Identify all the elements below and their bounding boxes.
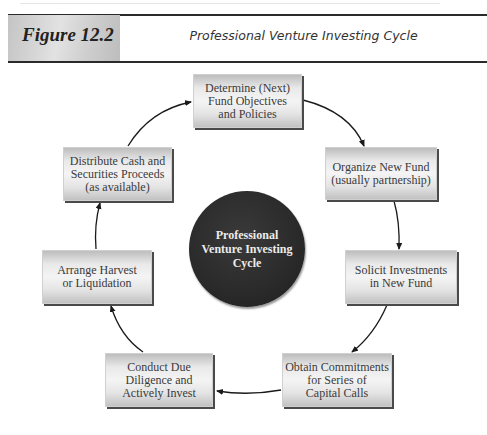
step-line: Arrange Harvest bbox=[57, 263, 137, 277]
step-obtain-commitments: Obtain Commitmentsfor Series ofCapital C… bbox=[282, 353, 392, 407]
center-line: Venture Investing bbox=[201, 242, 292, 256]
step-line: Securities Proceeds bbox=[71, 167, 165, 181]
center-line: Cycle bbox=[233, 256, 262, 270]
step-determine-fund-objectives: Determine (Next)Fund Objectivesand Polic… bbox=[193, 74, 302, 128]
step-line: Obtain Commitments bbox=[285, 360, 389, 374]
step-line: in New Fund bbox=[370, 276, 433, 290]
step-line: or Liquidation bbox=[62, 276, 131, 290]
step-solicit-investments: Solicit Investmentsin New Fund bbox=[345, 250, 457, 304]
step-conduct-due-diligence: Conduct DueDiligence andActively Invest bbox=[105, 353, 213, 407]
step-line: and Policies bbox=[218, 107, 276, 121]
arrow-distribute-to-determine bbox=[128, 102, 191, 146]
step-arrange-harvest: Arrange Harvestor Liquidation bbox=[42, 250, 152, 304]
step-line: Fund Objectives bbox=[208, 94, 287, 108]
step-line: (as available) bbox=[85, 180, 149, 194]
step-line: (usually partnership) bbox=[331, 173, 431, 187]
arrow-determine-to-organize bbox=[303, 100, 364, 146]
center-line: Professional bbox=[216, 228, 278, 242]
step-line: Diligence and bbox=[126, 373, 193, 387]
step-line: Capital Calls bbox=[306, 386, 368, 400]
arrow-conduct-to-arrange bbox=[111, 306, 143, 352]
step-line: Distribute Cash and bbox=[70, 154, 165, 168]
arrow-obtain-to-conduct bbox=[217, 390, 281, 393]
step-line: Actively Invest bbox=[122, 386, 196, 400]
step-line: Determine (Next) bbox=[205, 81, 290, 95]
arrow-organize-to-solicit bbox=[394, 201, 399, 249]
center-cycle-circle: ProfessionalVenture InvestingCycle bbox=[189, 191, 305, 307]
step-line: for Series of bbox=[307, 373, 366, 387]
arrow-arrange-to-distribute bbox=[96, 203, 101, 249]
step-line: Conduct Due bbox=[127, 360, 191, 374]
step-organize-new-fund: Organize New Fund(usually partnership) bbox=[325, 147, 437, 200]
step-distribute-cash: Distribute Cash andSecurities Proceeds(a… bbox=[63, 147, 172, 201]
step-line: Organize New Fund bbox=[332, 160, 429, 174]
step-line: Solicit Investments bbox=[355, 263, 447, 277]
arrow-solicit-to-obtain bbox=[352, 305, 387, 352]
